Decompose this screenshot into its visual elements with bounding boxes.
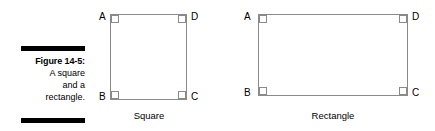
caption-bottom-rule xyxy=(21,118,85,123)
square-vertex-label-d: D xyxy=(191,12,198,22)
right-angle-marker-top-left xyxy=(259,15,267,23)
figure-caption: Figure 14-5: A square and a rectangle. xyxy=(5,55,85,103)
figure-number-label: Figure 14-5: xyxy=(5,55,85,67)
figure-caption-line-2: and a xyxy=(5,79,85,91)
rectangle-outline xyxy=(258,14,408,96)
square-vertex-label-a: A xyxy=(99,12,106,22)
figure-caption-line-3: rectangle. xyxy=(5,91,85,103)
rectangle-vertex-label-d: D xyxy=(412,12,419,22)
rectangle-vertex-label-c: C xyxy=(412,88,419,98)
square-vertex-label-c: C xyxy=(191,92,198,102)
rectangle-vertex-label-b: B xyxy=(244,88,251,98)
right-angle-marker-bottom-left xyxy=(259,87,267,95)
right-angle-marker-bottom-left xyxy=(111,91,119,99)
figure-caption-line-1: A square xyxy=(5,67,85,79)
caption-top-rule xyxy=(21,46,85,51)
figure-page: Figure 14-5: A square and a rectangle. A… xyxy=(0,0,435,131)
rectangle-vertex-label-a: A xyxy=(244,12,251,22)
square-vertex-label-b: B xyxy=(99,92,106,102)
right-angle-marker-bottom-right xyxy=(178,91,186,99)
square-caption: Square xyxy=(108,110,190,121)
square-outline xyxy=(110,14,187,100)
right-angle-marker-top-right xyxy=(399,15,407,23)
right-angle-marker-top-left xyxy=(111,15,119,23)
right-angle-marker-bottom-right xyxy=(399,87,407,95)
rectangle-caption: Rectangle xyxy=(256,110,410,121)
right-angle-marker-top-right xyxy=(178,15,186,23)
